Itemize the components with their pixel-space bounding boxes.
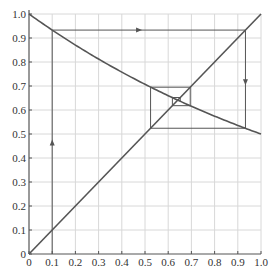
x-tick-label: 0.5 (138, 256, 152, 268)
y-tick-label: 0 (21, 248, 27, 260)
x-tick-label: 0.8 (208, 256, 222, 268)
y-tick-label: 0.4 (12, 152, 26, 164)
cobweb-path (52, 30, 245, 254)
y-tick-label: 0.3 (12, 176, 26, 188)
x-tick-label: 0.4 (115, 256, 129, 268)
y-tick-label: 0.7 (12, 80, 26, 92)
arrow-right-icon (136, 28, 142, 33)
x-tick-label: 0.2 (69, 256, 83, 268)
x-tick-label: 0.3 (92, 256, 106, 268)
x-tick-label: 0.1 (45, 256, 59, 268)
arrow-down-icon (243, 79, 248, 85)
x-tick-label: 0 (26, 256, 32, 268)
cobweb-chart: 00.10.20.30.40.50.60.70.80.91.0 00.10.20… (0, 0, 274, 268)
y-tick-label: 0.9 (12, 32, 26, 44)
y-tick-label: 0.8 (12, 56, 26, 68)
arrow-up-icon (50, 140, 55, 146)
x-tick-label: 0.7 (185, 256, 199, 268)
y-tick-label: 1.0 (12, 8, 26, 20)
y-tick-label: 0.2 (12, 200, 26, 212)
y-tick-label: 0.1 (12, 224, 26, 236)
y-tick-label: 0.6 (12, 104, 26, 116)
x-tick-label: 0.6 (161, 256, 175, 268)
y-tick-label: 0.5 (12, 128, 26, 140)
x-tick-label: 1.0 (254, 256, 268, 268)
x-tick-label: 0.9 (231, 256, 245, 268)
